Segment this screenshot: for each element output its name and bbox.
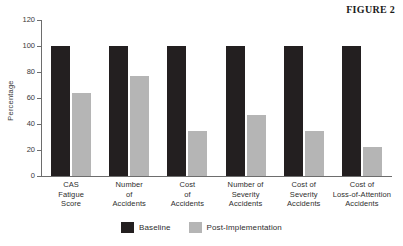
y-axis-tick-label: 60 (27, 93, 35, 102)
y-axis-tick-label: 0 (31, 171, 35, 180)
y-axis-tick-label: 20 (27, 145, 35, 154)
bar-group (333, 20, 391, 176)
bar-post-implementation (72, 93, 91, 176)
bar-post-implementation (130, 76, 149, 176)
y-axis-tick-mark (37, 124, 41, 125)
figure-title: FIGURE 2 (346, 4, 395, 15)
bar-baseline (109, 46, 128, 176)
y-axis-tick-mark (37, 46, 41, 47)
bar-group (158, 20, 216, 176)
bar-group (217, 20, 275, 176)
y-axis-tick-label: 80 (27, 67, 35, 76)
legend-item-baseline[interactable]: Baseline (121, 222, 171, 233)
y-axis-tick-mark (37, 98, 41, 99)
bar-group (100, 20, 158, 176)
y-axis-tick-label: 120 (22, 15, 35, 24)
bar-group (42, 20, 100, 176)
legend-swatch-post (189, 222, 202, 233)
bar-post-implementation (188, 131, 207, 177)
y-axis-title: Percentage (6, 69, 15, 133)
legend-swatch-baseline (121, 222, 134, 233)
bars-area (42, 20, 391, 176)
bar-baseline (226, 46, 245, 176)
figure-container: FIGURE 2 Percentage 020406080100120 CASF… (0, 0, 403, 246)
y-axis-tick-mark (37, 72, 41, 73)
bar-post-implementation (247, 115, 266, 176)
y-axis-tick-mark (37, 176, 41, 177)
y-axis-tick-mark (37, 150, 41, 151)
bar-baseline (167, 46, 186, 176)
y-axis-tick: 120 (0, 20, 41, 21)
y-axis-tick-label: 40 (27, 119, 35, 128)
y-axis-tick: 60 (0, 98, 41, 99)
y-axis-tick: 100 (0, 46, 41, 47)
x-axis-category-label: Cost ofLoss-of-AttentionAccidents (327, 180, 397, 209)
y-axis-tick: 40 (0, 124, 41, 125)
legend-label: Baseline (139, 223, 171, 232)
y-axis-tick: 20 (0, 150, 41, 151)
legend-item-post[interactable]: Post-Implementation (189, 222, 282, 233)
bar-baseline (51, 46, 70, 176)
y-axis-tick-mark (37, 20, 41, 21)
chart-legend: BaselinePost-Implementation (0, 222, 403, 233)
bar-post-implementation (305, 131, 324, 177)
legend-label: Post-Implementation (207, 223, 282, 232)
bar-baseline (284, 46, 303, 176)
bar-baseline (342, 46, 361, 176)
bar-group (275, 20, 333, 176)
bar-post-implementation (363, 147, 382, 176)
y-axis-tick: 0 (0, 176, 41, 177)
y-axis-tick: 80 (0, 72, 41, 73)
x-axis-line (41, 176, 392, 177)
y-axis-tick-label: 100 (22, 41, 35, 50)
x-axis-category-labels: CASFatigueScoreNumberofAccidentsCostofAc… (42, 180, 391, 216)
